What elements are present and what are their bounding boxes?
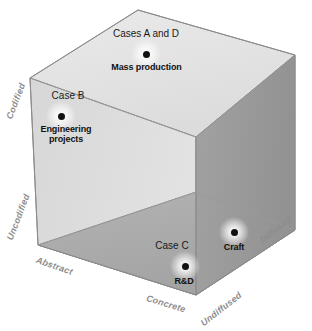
point-case-c[interactable]: [182, 263, 189, 270]
label-cases-a-d-case: Cases A and D: [106, 28, 186, 39]
label-case-b-value-line2: projects: [28, 134, 104, 144]
label-case-c-case: Case C: [146, 240, 198, 251]
point-craft[interactable]: [231, 229, 238, 236]
point-case-b[interactable]: [58, 113, 65, 120]
diagram-canvas: Cases A and D Mass production Case B Eng…: [0, 0, 312, 331]
cube-illustration: [0, 0, 312, 331]
point-cases-a-d[interactable]: [143, 51, 150, 58]
label-case-b-case: Case B: [42, 90, 94, 101]
label-case-b-value-line1: Engineering: [28, 124, 104, 134]
label-cases-a-d-value: Mass production: [98, 62, 195, 72]
label-case-c-value: R&D: [161, 276, 207, 286]
label-craft-value: Craft: [212, 242, 256, 252]
